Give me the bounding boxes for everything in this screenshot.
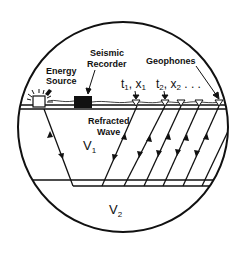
svg-text:t1, x1: t1, x1 — [121, 77, 146, 92]
refracted-wave-label-2: Wave — [97, 127, 120, 137]
refraction-diagram: Energy Source Seismic Recorder Geophones… — [0, 0, 245, 254]
geophones-label: Geophones — [146, 56, 196, 66]
refracted-ray-4 — [163, 106, 199, 186]
arrow-icon — [121, 133, 127, 140]
refracted-ray-5 — [183, 106, 219, 186]
energy-source-label-2: Source — [46, 76, 77, 86]
v2-label: V2 — [109, 202, 123, 219]
recorder-label-1: Seismic — [90, 48, 124, 58]
incident-ray — [44, 109, 73, 186]
arrow-icon — [112, 154, 118, 161]
arrow-icon — [175, 149, 181, 156]
hammer-icon — [45, 89, 52, 96]
energy-source-box — [33, 96, 45, 107]
arrow-icon — [213, 92, 219, 99]
t1-x1-label: t1, x1 — [121, 77, 146, 92]
refracted-ray-2 — [124, 106, 165, 186]
arrow-icon — [58, 153, 64, 159]
arrow-icon — [86, 88, 91, 94]
seismic-recorder-box — [74, 96, 92, 108]
arrow-icon — [133, 95, 139, 99]
v1-label: V1 — [83, 138, 97, 155]
t2-x2-label: t2, x2 . . . — [156, 77, 201, 92]
arrow-icon — [137, 151, 143, 158]
recorder-label-2: Recorder — [87, 59, 127, 69]
energy-source-label-1: Energy — [46, 66, 77, 76]
refracted-ray-3 — [144, 106, 181, 186]
svg-text:t2, x2 . . .: t2, x2 . . . — [156, 77, 201, 92]
refracted-wave-label-1: Refracted — [88, 116, 130, 126]
refracted-ray-6 — [202, 106, 240, 186]
arrow-icon — [162, 95, 168, 99]
arrow-icon — [156, 150, 162, 157]
